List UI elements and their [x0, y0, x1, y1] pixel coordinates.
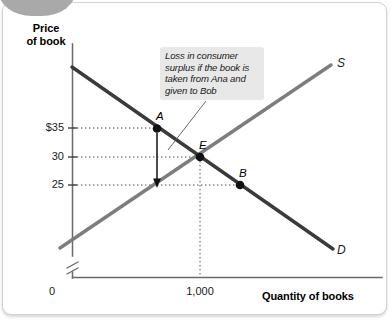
y-tick-label-25: 25: [20, 178, 64, 190]
callout-box: Loss in consumer surplus if the book is …: [160, 47, 264, 100]
y-axis-title: Price of book: [20, 22, 72, 47]
point-e-label: E: [199, 139, 207, 151]
point-e-marker: [196, 153, 205, 162]
demand-curve-label: D: [337, 243, 346, 257]
y-tick-label-35: $35: [20, 121, 64, 133]
x-tick-label-1000: 1,000: [172, 285, 228, 297]
callout-text: Loss in consumer surplus if the book is …: [165, 50, 260, 96]
figure-container: Price of book Quantity of books $35 30 2…: [0, 0, 391, 325]
point-b-label: B: [239, 167, 247, 179]
point-a-label: A: [156, 110, 164, 122]
x-axis-title: Quantity of books: [262, 290, 386, 303]
point-a-marker: [153, 124, 162, 133]
loss-arrow: [153, 133, 161, 188]
x-tick-label-0: 0: [38, 285, 66, 297]
point-b-marker: [236, 181, 245, 190]
y-tick-label-30: 30: [20, 150, 64, 162]
y-axis-title-line1: Price: [33, 22, 59, 34]
supply-curve-label: S: [337, 56, 345, 70]
y-axis-title-line2: of book: [26, 35, 65, 47]
